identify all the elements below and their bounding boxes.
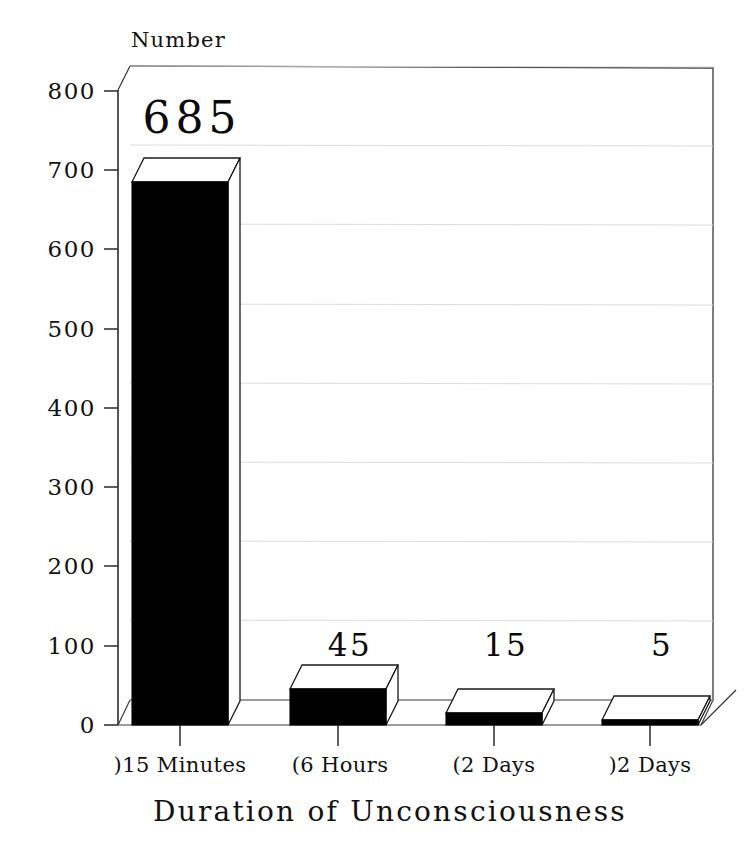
bar-group-2: 15 xyxy=(446,627,554,725)
y-tick-label-800: 800 xyxy=(48,78,96,104)
x-tick-label-2: (2 Days xyxy=(452,753,535,777)
x-tick-labels: )15 Minutes (6 Hours (2 Days )2 Days xyxy=(114,753,692,777)
y-axis-title: Number xyxy=(131,28,226,52)
y-tick-label-600: 600 xyxy=(48,236,96,262)
bar-chart-figure: 0 100 200 300 400 500 600 700 800 Number… xyxy=(0,0,754,841)
depth-edge-top-left xyxy=(118,66,130,90)
y-tick-label-300: 300 xyxy=(48,474,96,500)
y-tick-label-200: 200 xyxy=(48,553,96,579)
bar-2-top-face xyxy=(446,689,554,713)
depth-edge-bottom-left xyxy=(118,700,130,725)
x-axis-ticks xyxy=(180,725,650,746)
bar-2-value-label: 15 xyxy=(484,627,528,663)
bar-1-top-face xyxy=(290,665,398,689)
x-tick-label-0: )15 Minutes xyxy=(114,753,247,777)
bar-0-top-face xyxy=(132,158,240,182)
y-tick-label-700: 700 xyxy=(48,157,96,183)
bar-1-value-label: 45 xyxy=(328,627,372,663)
y-axis xyxy=(104,90,118,725)
y-tick-labels: 0 100 200 300 400 500 600 700 800 xyxy=(48,78,96,738)
x-tick-label-1: (6 Hours xyxy=(292,753,389,777)
x-tick-label-3: )2 Days xyxy=(608,753,691,777)
y-tick-label-500: 500 xyxy=(48,316,96,342)
bar-0-front-face xyxy=(132,182,228,725)
chart-canvas: 0 100 200 300 400 500 600 700 800 Number… xyxy=(0,0,754,841)
bar-group-1: 45 xyxy=(290,627,398,725)
bar-3-front-face xyxy=(602,720,698,725)
bar-group-3: 5 xyxy=(602,627,710,725)
bar-0-side-face xyxy=(228,158,240,725)
y-tick-label-400: 400 xyxy=(48,395,96,421)
x-axis-title: Duration of Unconsciousness xyxy=(153,795,627,828)
y-tick-label-0: 0 xyxy=(80,712,96,738)
bar-2-front-face xyxy=(446,713,542,725)
bar-1-front-face xyxy=(290,689,386,725)
y-tick-label-100: 100 xyxy=(48,633,96,659)
bar-3-top-face xyxy=(602,696,710,720)
bar-0-value-label: 685 xyxy=(143,92,242,143)
bar-group-0: 685 xyxy=(132,92,241,725)
bar-3-value-label: 5 xyxy=(651,627,673,663)
